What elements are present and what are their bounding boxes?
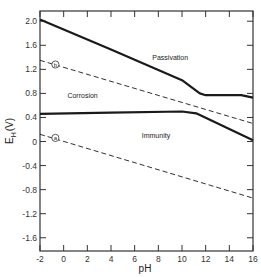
- x-tick-label: 2: [85, 254, 90, 264]
- region-label-passivation: Passivation: [152, 54, 188, 61]
- x-tick-label: 16: [248, 254, 258, 264]
- dashed-line-a: [40, 134, 253, 198]
- x-tick-label: 10: [177, 254, 187, 264]
- y-tick-label: -0.4: [22, 161, 37, 171]
- y-tick-label: -1.6: [22, 233, 37, 243]
- x-tick-label: 8: [156, 254, 161, 264]
- y-tick-label: -0.8: [22, 185, 37, 195]
- region-label-corrosion: Corrosion: [67, 92, 97, 99]
- y-axis-label-unit: (V): [4, 118, 15, 131]
- x-tick-label: -2: [36, 254, 44, 264]
- y-tick-label: 0.8: [25, 88, 37, 98]
- y-tick-label: 1.6: [25, 40, 37, 50]
- x-tick-label: 14: [225, 254, 235, 264]
- x-tick-label: 6: [132, 254, 137, 264]
- x-tick-label: 4: [109, 254, 114, 264]
- pourbaix-diagram: -202468101214162.01.61.20.80.40-0.4-0.8-…: [0, 0, 261, 277]
- y-tick-label: 1.2: [25, 64, 37, 74]
- svg-text:EH(V): EH(V): [4, 118, 17, 144]
- region-label-immunity: Immunity: [142, 132, 171, 140]
- y-axis-label-sub: H: [10, 132, 17, 137]
- region-annotations: PassivationCorrosionImmunityba: [52, 54, 188, 142]
- data-series: [40, 19, 253, 198]
- y-tick-label: 0.4: [25, 112, 37, 122]
- y-axis-label: EH(V): [4, 118, 17, 144]
- x-tick-label: 12: [201, 254, 211, 264]
- y-tick-label: 2.0: [25, 16, 37, 26]
- y-tick-label: 0: [32, 137, 37, 147]
- boundary-line: [40, 19, 253, 97]
- x-axis-label: pH: [139, 263, 152, 274]
- x-tick-label: 0: [61, 254, 66, 264]
- y-tick-label: -1.2: [22, 209, 37, 219]
